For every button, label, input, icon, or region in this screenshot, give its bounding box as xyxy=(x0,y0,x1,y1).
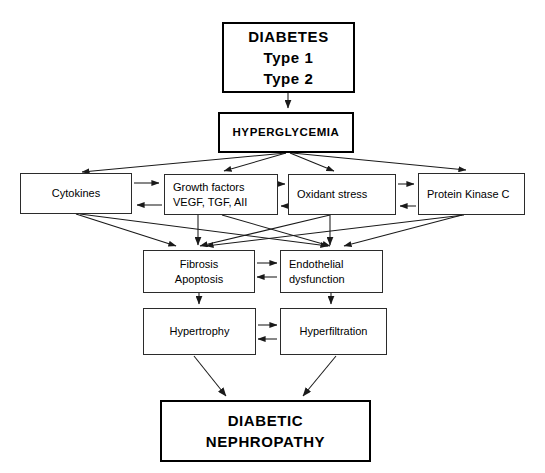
flowchart-diagram: DIABETES Type 1 Type 2 HYPERGLYCEMIA Cyt… xyxy=(0,0,545,473)
node-diabetes-line-1: DIABETES xyxy=(248,26,329,47)
node-oxidant-stress: Oxidant stress xyxy=(288,174,396,215)
node-cytokines: Cytokines xyxy=(20,173,132,214)
node-diabetes-line-2: Type 1 xyxy=(263,47,313,68)
edge-pkc-to-endothelial xyxy=(344,215,462,246)
node-protein-kinase-c: Protein Kinase C xyxy=(418,173,525,215)
node-growth-factors-line-1: Growth factors xyxy=(173,180,245,194)
edge-hyperglycemia-to-oxidant xyxy=(290,153,334,171)
node-fibrosis-line-1: Fibrosis xyxy=(180,257,219,271)
node-nephropathy-line-2: NEPHROPATHY xyxy=(206,431,325,452)
edge-hyperglycemia-to-cytokines xyxy=(82,153,286,172)
edge-cytokines-to-endothelial xyxy=(80,214,328,246)
edge-hyperglycemia-to-pkc xyxy=(292,153,466,170)
edge-hyperfiltration-to-nephropathy xyxy=(303,356,336,396)
node-diabetes-line-3: Type 2 xyxy=(263,68,313,89)
node-fibrosis-apoptosis: Fibrosis Apoptosis xyxy=(143,250,255,293)
node-cytokines-label: Cytokines xyxy=(52,186,100,200)
node-hypertrophy: Hypertrophy xyxy=(143,308,256,355)
edge-pkc-to-fibrosis xyxy=(206,215,464,246)
edge-cytokines-to-fibrosis xyxy=(76,214,176,246)
node-hyperglycemia-label: HYPERGLYCEMIA xyxy=(232,124,339,140)
node-diabetes: DIABETES Type 1 Type 2 xyxy=(222,22,355,93)
node-endothelial-line-2: dysfunction xyxy=(289,272,345,286)
node-hyperfiltration: Hyperfiltration xyxy=(280,308,387,355)
node-endothelial-dysfunction: Endothelial dysfunction xyxy=(280,250,383,293)
node-fibrosis-line-2: Apoptosis xyxy=(175,272,223,286)
node-growth-factors-line-2: VEGF, TGF, AII xyxy=(173,195,247,209)
node-oxidant-stress-label: Oxidant stress xyxy=(297,187,367,201)
node-hyperglycemia: HYPERGLYCEMIA xyxy=(218,112,354,153)
node-growth-factors: Growth factors VEGF, TGF, AII xyxy=(164,174,278,215)
edge-oxidant-to-fibrosis xyxy=(200,215,330,246)
node-hyperfiltration-label: Hyperfiltration xyxy=(300,324,368,338)
node-hypertrophy-label: Hypertrophy xyxy=(170,324,230,338)
node-protein-kinase-c-label: Protein Kinase C xyxy=(427,187,510,201)
node-endothelial-line-1: Endothelial xyxy=(289,257,343,271)
edge-growth-factors-to-endothelial xyxy=(222,215,330,246)
edge-hypertrophy-to-nephropathy xyxy=(194,356,226,396)
node-diabetic-nephropathy: DIABETIC NEPHROPATHY xyxy=(160,400,371,462)
node-nephropathy-line-1: DIABETIC xyxy=(228,410,304,431)
